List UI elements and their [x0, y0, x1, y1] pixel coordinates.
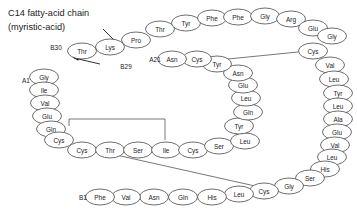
svg-text:Glu: Glu [332, 129, 342, 136]
svg-text:Gln: Gln [46, 126, 56, 133]
residue-b19-cys: Cys [299, 43, 328, 59]
svg-text:Val: Val [331, 142, 340, 149]
terminus-label-b29: B29 [120, 63, 132, 70]
svg-text:Tyr: Tyr [213, 61, 223, 69]
residue-a10-ile: Ile [152, 142, 181, 158]
svg-text:Gly: Gly [284, 183, 294, 191]
svg-text:Thr: Thr [105, 147, 115, 154]
residue-a21-asn: Asn [158, 51, 187, 67]
residue-b23-gly: Gly [251, 8, 280, 24]
residue-b6-leu: Leu [225, 186, 254, 202]
terminus-label-a1: A1 [22, 77, 30, 84]
residue-b3-asn: Asn [140, 189, 169, 205]
insulin-detemir-sequence-diagram: C14 fatty-acid chain (myristic-acid) Thr… [0, 0, 357, 212]
residue-a14-tyr: Tyr [225, 118, 254, 134]
residue-b30-thr: Thr [68, 43, 97, 59]
svg-text:Gly: Gly [260, 13, 270, 21]
svg-text:Val: Val [326, 62, 335, 69]
svg-text:Ser: Ser [305, 175, 316, 182]
residue-b7-cys: Cys [250, 183, 279, 199]
svg-text:Leu: Leu [333, 103, 344, 110]
residue-b1-phe: Phe [86, 189, 115, 205]
svg-text:Thr: Thr [77, 48, 87, 55]
terminus-label-b1: B1 [79, 194, 87, 201]
svg-text:Ser: Ser [214, 143, 225, 150]
svg-text:Ile: Ile [41, 87, 48, 94]
svg-text:Leu: Leu [240, 138, 251, 145]
svg-text:Glu: Glu [42, 113, 52, 120]
svg-text:Leu: Leu [241, 95, 252, 102]
figure-title-line-1: C14 fatty-acid chain [8, 8, 89, 18]
residue-b26-tyr: Tyr [172, 15, 201, 31]
svg-text:Ala: Ala [333, 116, 343, 123]
svg-text:Cys: Cys [187, 147, 198, 155]
svg-text:Gly: Gly [39, 74, 49, 82]
residue-b4-gln: Gln [169, 189, 198, 205]
svg-text:Leu: Leu [327, 154, 338, 161]
svg-text:Tyr: Tyr [182, 20, 192, 28]
residue-b18-val: Val [316, 57, 345, 73]
svg-text:Asn: Asn [232, 70, 243, 77]
residue-b29-lys: Lys [96, 39, 125, 55]
residue-a6-cys: Cys [45, 132, 74, 148]
svg-text:Glu: Glu [238, 82, 248, 89]
residue-a12-ser: Ser [205, 138, 234, 154]
svg-text:His: His [207, 194, 216, 201]
svg-text:Cys: Cys [76, 147, 87, 155]
svg-text:Ser: Ser [133, 147, 144, 154]
svg-text:Tyr: Tyr [334, 90, 344, 98]
svg-text:Arg: Arg [286, 16, 296, 24]
residue-a15-gln: Gln [234, 104, 263, 120]
residue-a7-cys: Cys [68, 142, 97, 158]
svg-text:Glu: Glu [308, 25, 318, 32]
residue-b17-leu: Leu [320, 71, 349, 87]
svg-text:Gln: Gln [178, 194, 188, 201]
svg-text:Leu: Leu [329, 76, 340, 83]
svg-text:Pro: Pro [131, 37, 141, 44]
terminus-label-a21: A21 [149, 56, 161, 63]
residue-a8-thr: Thr [96, 142, 125, 158]
residue-a9-ser: Ser [124, 142, 153, 158]
terminus-label-b30: B30 [50, 44, 62, 51]
residue-b27-thr: Thr [146, 21, 175, 37]
svg-text:Tyr: Tyr [235, 123, 245, 131]
residue-a11-cys: Cys [179, 142, 208, 158]
svg-text:Asn: Asn [166, 56, 177, 63]
residue-b20-gly: Gly [318, 28, 347, 44]
svg-text:Lys: Lys [105, 44, 115, 52]
svg-text:Val: Val [41, 100, 50, 107]
svg-text:Val: Val [122, 194, 131, 201]
svg-text:Asn: Asn [148, 194, 159, 201]
svg-text:Phe: Phe [206, 15, 218, 22]
residue-a13-leu: Leu [231, 133, 260, 149]
svg-text:Phe: Phe [94, 194, 106, 201]
disulfide-bond-a6-a11 [69, 119, 165, 140]
svg-text:Cys: Cys [53, 137, 64, 145]
svg-text:His: His [320, 166, 329, 173]
svg-text:Gly: Gly [327, 33, 337, 41]
svg-text:Gln: Gln [243, 109, 253, 116]
residue-b25-phe: Phe [198, 10, 227, 26]
svg-text:Cys: Cys [258, 188, 269, 196]
svg-text:Phe: Phe [232, 14, 244, 21]
residue-b28-pro: Pro [122, 32, 151, 48]
figure-title-line-2: (myristic-acid) [8, 22, 65, 32]
residue-b8-gly: Gly [275, 178, 304, 194]
svg-text:Cys: Cys [191, 56, 202, 64]
svg-text:Leu: Leu [234, 191, 245, 198]
svg-text:Ile: Ile [163, 147, 170, 154]
residue-b24-phe: Phe [224, 9, 253, 25]
residue-b2-val: Val [112, 189, 141, 205]
svg-text:Cys: Cys [307, 48, 318, 56]
residue-b5-his: His [198, 189, 227, 205]
svg-text:Thr: Thr [155, 26, 165, 33]
